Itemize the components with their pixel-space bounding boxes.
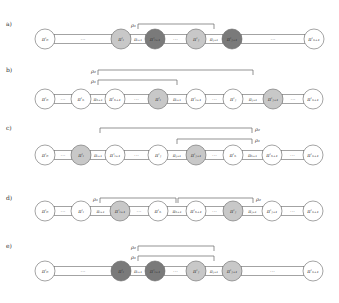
- bracket-label: ρ₁: [130, 254, 136, 261]
- node-label: π'ᵢ₊₁: [114, 208, 125, 214]
- node-label: π'ₕ: [154, 208, 162, 214]
- row-a: a)···πᵢ₊₁···πⱼ₊₁···π'₀π'ᵢπ'ᵢ₊₁π'ⱼπ'ⱼ₊₁π'…: [6, 20, 324, 49]
- ellipsis: ···: [137, 208, 142, 214]
- node-label: π'ᵢ₊₁: [149, 268, 160, 274]
- node-label: π'ⱼ: [192, 268, 200, 274]
- bracket: [138, 256, 214, 261]
- edge-label: πⱼ₊₁: [247, 209, 257, 214]
- node-label: π'ₙ₊₁: [307, 36, 319, 42]
- ellipsis: ···: [212, 96, 217, 102]
- node-label: π'₀: [41, 152, 49, 158]
- edge-label: πₕ₊₁: [247, 153, 257, 158]
- ellipsis: ···: [134, 96, 139, 102]
- node-label: π'ⱼ₊₁: [190, 152, 202, 158]
- bracket-label: ρ₂: [130, 244, 136, 251]
- ellipsis: ···: [173, 268, 178, 274]
- node-label: π'ⱼ: [154, 152, 162, 158]
- bracket-label: ρ₁: [90, 78, 96, 85]
- edge-label: πⱼ₊₁: [248, 97, 258, 102]
- ellipsis: ···: [61, 96, 66, 102]
- bracket: [98, 70, 253, 75]
- node-label: π'ᵢ: [77, 152, 84, 158]
- bracket: [100, 128, 252, 133]
- node-label: π'ₕ: [229, 152, 237, 158]
- node-label: π'₀: [41, 268, 49, 274]
- ellipsis: ···: [212, 152, 217, 158]
- node-label: π'ₕ: [77, 96, 85, 102]
- ellipsis: ···: [290, 152, 295, 158]
- bracket-label: ρ₁: [130, 22, 136, 29]
- node-label: π'ᵢ₊₁: [149, 36, 160, 42]
- node-label: π'ᵢ: [117, 268, 124, 274]
- bracket: [98, 80, 177, 85]
- edge-label: πᵢ₊₁: [93, 153, 102, 158]
- ellipsis: ···: [81, 36, 86, 42]
- bracket: [177, 139, 252, 144]
- ellipsis: ···: [212, 208, 217, 214]
- node-label: π'ⱼ₊₁: [267, 96, 279, 102]
- node-label: π'₀: [41, 96, 49, 102]
- ellipsis: ···: [173, 36, 178, 42]
- node-label: π'ₕ₊₁: [189, 208, 201, 214]
- edge-label: πₕ₊₁: [92, 97, 102, 102]
- row-label: d): [6, 194, 12, 201]
- ellipsis: ···: [81, 268, 86, 274]
- edge-label: πᵢ₊₁: [133, 269, 142, 274]
- edge-label: πⱼ₊₁: [209, 269, 219, 274]
- ellipsis: ···: [61, 208, 66, 214]
- ellipsis: ···: [61, 152, 66, 158]
- bracket-label: ρ₂: [254, 126, 260, 133]
- ellipsis: ···: [270, 268, 275, 274]
- node-label: π'₀: [41, 208, 49, 214]
- node-label: π'ₕ₊₁: [108, 96, 120, 102]
- bracket-label: ρ₁: [92, 196, 98, 203]
- node-label: π'ⱼ₊₁: [226, 268, 238, 274]
- ellipsis: ···: [271, 36, 276, 42]
- row-c: c)···πᵢ₊₁···πⱼ₊₁···πₕ₊₁···π'₀π'ᵢπ'ᵢ₊₁π'ⱼ…: [6, 124, 323, 165]
- node-label: π'ₙ₊₁: [306, 208, 318, 214]
- node-label: π'ₙ₊₁: [306, 96, 318, 102]
- node-label: π'ⱼ₊₁: [226, 36, 238, 42]
- bracket: [138, 24, 214, 29]
- ellipsis: ···: [290, 208, 295, 214]
- bracket-label: ρ₂: [90, 68, 96, 75]
- row-label: a): [6, 20, 12, 27]
- row-label: c): [6, 124, 12, 131]
- edge-label: πᵢ₊₁: [172, 97, 181, 102]
- ellipsis: ···: [134, 152, 139, 158]
- bracket: [100, 198, 176, 203]
- node-label: π'ᵢ: [154, 96, 161, 102]
- row-b: b)···πₕ₊₁···πᵢ₊₁···πⱼ₊₁···π'₀π'ₕπ'ₕ₊₁π'ᵢ…: [6, 66, 323, 109]
- node-label: π'ⱼ: [229, 96, 237, 102]
- node-label: π'ᵢ: [117, 36, 124, 42]
- edge-label: πⱼ₊₁: [209, 37, 219, 42]
- bracket: [138, 246, 214, 251]
- row-label: e): [6, 242, 12, 249]
- bracket-label: ρ₂: [255, 196, 261, 203]
- node-label: π'₀: [41, 36, 49, 42]
- permutation-diagram: a)···πᵢ₊₁···πⱼ₊₁···π'₀π'ᵢπ'ᵢ₊₁π'ⱼπ'ⱼ₊₁π'…: [0, 0, 339, 303]
- node-label: π'ⱼ₊₁: [266, 208, 278, 214]
- node-label: π'ᵢ: [77, 208, 84, 214]
- node-label: π'ᵢ₊₁: [190, 96, 201, 102]
- edge-label: πⱼ₊₁: [172, 153, 182, 158]
- bracket-label: ρ₁: [254, 137, 260, 144]
- row-label: b): [6, 66, 12, 73]
- edge-label: πᵢ₊₁: [95, 209, 104, 214]
- edge-label: πᵢ₊₁: [133, 37, 142, 42]
- row-e: e)···πᵢ₊₁···πⱼ₊₁···π'₀π'ᵢπ'ᵢ₊₁π'ⱼπ'ⱼ₊₁π'…: [6, 242, 323, 281]
- bracket: [178, 198, 253, 203]
- ellipsis: ···: [291, 96, 296, 102]
- node-label: π'ₕ₊₁: [265, 152, 277, 158]
- node-label: π'ⱼ: [192, 36, 200, 42]
- node-label: π'ₙ₊₁: [306, 268, 318, 274]
- node-label: π'ⱼ: [229, 208, 237, 214]
- node-label: π'ᵢ₊₁: [109, 152, 120, 158]
- row-d: d)···πᵢ₊₁···πₕ₊₁···πⱼ₊₁···π'₀π'ᵢπ'ᵢ₊₁π'ₕ…: [6, 194, 323, 221]
- edge-label: πₕ₊₁: [171, 209, 181, 214]
- node-label: π'ₙ₊₁: [306, 152, 318, 158]
